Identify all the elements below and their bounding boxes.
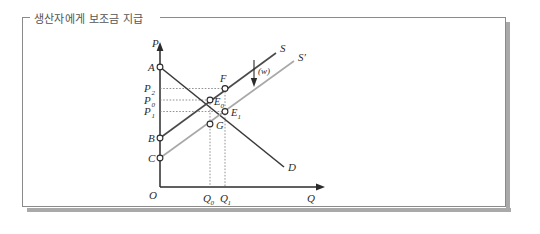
curve-label-s-prime: S′ <box>298 51 307 63</box>
curve-label-d: D <box>287 161 296 173</box>
y-label-a: A <box>147 61 155 73</box>
point-label-e0-subscript: 0 <box>221 102 225 110</box>
supply-demand-subsidy-chart: (w) P Q O A B C P 2 P 0 P 1 <box>22 17 506 207</box>
y-label-p2-base: P <box>143 82 151 94</box>
panel-shadow-right <box>506 22 510 212</box>
subsidy-amount-label: (w) <box>258 66 270 76</box>
panel-shadow-bottom <box>27 208 511 212</box>
point-marker-a <box>157 64 163 70</box>
y-label-p0-base: P <box>143 94 151 106</box>
point-marker-g <box>207 121 213 127</box>
curve-label-s: S <box>280 42 286 54</box>
point-label-f: F <box>219 73 227 84</box>
x-axis-label: Q <box>307 192 315 204</box>
point-marker-b <box>157 135 163 141</box>
point-marker-e0 <box>207 97 213 103</box>
x-label-q1: Q 1 <box>220 192 231 207</box>
x-label-q0: Q 0 <box>203 192 215 207</box>
x-label-q1-subscript: 1 <box>228 199 232 207</box>
point-marker-f <box>222 86 228 92</box>
y-label-p2-subscript: 2 <box>152 89 156 97</box>
x-label-q0-subscript: 0 <box>211 199 215 207</box>
subsidy-shift-arrow-group <box>251 60 257 87</box>
y-label-c: C <box>148 152 156 164</box>
y-label-b: B <box>148 132 155 144</box>
point-label-e1-subscript: 1 <box>238 113 242 121</box>
y-label-p1-subscript: 1 <box>152 112 156 120</box>
point-marker-c <box>157 155 163 161</box>
y-axis-label: P <box>151 37 159 49</box>
screenshot-root: 생산자에게 보조금 지급 <box>0 0 540 234</box>
x-axis-arrowhead <box>316 184 325 191</box>
point-label-e0: E 0 <box>213 96 225 110</box>
origin-label: O <box>149 189 157 201</box>
point-label-e1: E 1 <box>230 107 241 121</box>
subsidy-shift-arrow-head <box>251 78 257 87</box>
point-label-g: G <box>216 120 224 131</box>
y-label-p1-base: P <box>143 105 151 117</box>
y-label-p0-subscript: 0 <box>152 101 156 109</box>
